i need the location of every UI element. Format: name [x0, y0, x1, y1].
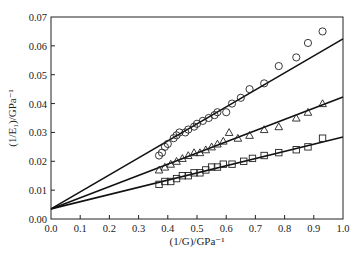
x-tick-label: 0.5 [190, 223, 203, 234]
y-tick-label: 0.01 [29, 185, 47, 196]
y-tick-label: 0.04 [29, 99, 48, 110]
chart-container: 0.00.10.20.30.40.50.60.70.80.91.0 0.000.… [0, 0, 358, 257]
x-tick-label: 0.4 [161, 223, 175, 234]
x-tick-label: 0.9 [307, 223, 320, 234]
circle-marker [275, 62, 282, 69]
scatter-plot: 0.00.10.20.30.40.50.60.70.80.91.0 0.000.… [0, 0, 358, 257]
x-tick-label: 1.0 [336, 223, 349, 234]
x-axis-label: (1/G)/GPa⁻¹ [170, 235, 225, 248]
circle-marker [161, 143, 168, 150]
y-tick-label: 0.02 [29, 156, 47, 167]
triangle-marker [275, 123, 283, 130]
circle-marker [319, 28, 326, 35]
circle-marker [304, 39, 311, 46]
circle-marker [246, 86, 253, 93]
y-tick-label: 0.05 [29, 70, 47, 81]
y-tick-label: 0.06 [29, 41, 47, 52]
x-tick-label: 0.3 [132, 223, 145, 234]
y-tick-label: 0.00 [29, 214, 47, 225]
triangle-marker [225, 129, 233, 136]
circle-marker [155, 152, 162, 159]
square-marker [319, 135, 325, 141]
y-tick-label: 0.07 [29, 12, 47, 23]
x-tick-label: 0.2 [103, 223, 116, 234]
circle-marker [293, 54, 300, 61]
circle-marker [223, 109, 230, 116]
x-tick-label: 0.7 [249, 223, 262, 234]
x-tick-label: 0.6 [220, 223, 233, 234]
x-axis-ticks: 0.00.10.20.30.40.50.60.70.80.91.0 [44, 215, 349, 234]
x-tick-label: 0.1 [74, 223, 87, 234]
x-tick-label: 0.8 [278, 223, 291, 234]
data-markers [155, 28, 326, 188]
plot-frame [51, 17, 343, 219]
y-axis-label: (1/E₁)/GPa⁻¹ [6, 89, 19, 147]
y-tick-label: 0.03 [29, 127, 47, 138]
